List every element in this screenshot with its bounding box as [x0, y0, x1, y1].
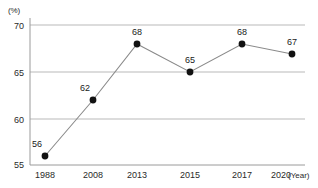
data-point-2020: [289, 51, 296, 58]
data-point-2017: [239, 41, 246, 48]
data-series-line: [45, 44, 292, 156]
chart-plot-area: [0, 0, 318, 188]
data-label-2013: 68: [124, 27, 150, 37]
data-label-2020: 67: [279, 37, 305, 47]
data-label-2008: 62: [72, 83, 98, 93]
data-label-2017: 68: [229, 27, 255, 37]
x-tick-label-2015: 2015: [167, 170, 213, 180]
data-point-2008: [90, 97, 97, 104]
data-point-2013: [134, 41, 141, 48]
x-tick-label-1988: 1988: [22, 170, 68, 180]
x-axis-unit-label: (Year): [288, 171, 310, 180]
x-tick-label-2008: 2008: [70, 170, 116, 180]
data-point-1988: [42, 153, 49, 160]
data-point-2015: [187, 69, 194, 76]
x-tick-label-2013: 2013: [114, 170, 160, 180]
data-label-1988: 56: [24, 139, 50, 149]
line-chart: (%) 70 65 60 55 56 62 68 65 68 67 1988 2…: [0, 0, 318, 188]
data-label-2015: 65: [177, 55, 203, 65]
